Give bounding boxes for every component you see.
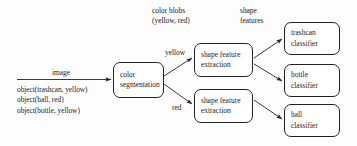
edge-shape-top-to-bottle xyxy=(254,64,282,81)
node-color-segmentation[interactable]: color segmentation xyxy=(113,62,164,98)
input-predicate-list: object(trashcan, yellow) object(ball, re… xyxy=(17,85,88,116)
annotation-shape-features-line-1: shape xyxy=(240,6,263,16)
node-shape-feature-extraction-bottom[interactable]: shape feature extraction xyxy=(194,89,253,123)
node-shape-feature-extraction-top-line-2: extraction xyxy=(201,60,252,70)
node-bottle-classifier[interactable]: bottle classifier xyxy=(284,64,340,97)
edge-color-segmentation-to-shape-bottom xyxy=(164,84,192,104)
annotation-shape-features: shape features xyxy=(240,6,263,26)
edge-color-segmentation-to-shape-top xyxy=(164,58,192,76)
node-color-segmentation-line-2: segmentation xyxy=(120,80,163,90)
node-shape-feature-extraction-top[interactable]: shape feature extraction xyxy=(194,43,253,77)
node-bottle-classifier-line-2: classifier xyxy=(291,81,339,91)
input-predicate-trashcan: object(trashcan, yellow) xyxy=(17,85,88,95)
node-ball-classifier-line-1: ball xyxy=(291,110,339,120)
edge-label-yellow: yellow xyxy=(165,48,185,58)
node-trashcan-classifier[interactable]: trashcan classifier xyxy=(284,22,340,55)
edge-label-red-text: red xyxy=(172,103,181,113)
diagram-canvas: color blobs (yellow, red) shape features… xyxy=(0,0,357,146)
node-ball-classifier-line-2: classifier xyxy=(291,121,339,131)
annotation-color-blobs: color blobs (yellow, red) xyxy=(152,6,190,26)
edge-label-red: red xyxy=(172,103,181,113)
node-bottle-classifier-line-1: bottle xyxy=(291,70,339,80)
edge-shape-bottom-to-ball xyxy=(254,100,282,119)
annotation-color-blobs-line-1: color blobs xyxy=(152,6,190,16)
node-trashcan-classifier-line-1: trashcan xyxy=(291,28,339,38)
node-trashcan-classifier-line-2: classifier xyxy=(291,39,339,49)
input-predicate-bottle: object(bottle, yellow) xyxy=(17,106,88,116)
input-predicate-ball: object(ball, red) xyxy=(17,95,88,105)
node-shape-feature-extraction-bottom-line-2: extraction xyxy=(201,106,252,116)
node-ball-classifier[interactable]: ball classifier xyxy=(284,104,340,137)
edge-label-image: image xyxy=(52,68,70,78)
node-shape-feature-extraction-top-line-1: shape feature xyxy=(201,50,252,60)
node-shape-feature-extraction-bottom-line-1: shape feature xyxy=(201,96,252,106)
edge-label-yellow-text: yellow xyxy=(165,48,185,58)
annotation-color-blobs-line-2: (yellow, red) xyxy=(152,16,190,26)
annotation-shape-features-line-2: features xyxy=(240,16,263,26)
node-color-segmentation-line-1: color xyxy=(120,70,163,80)
edge-label-image-text: image xyxy=(52,68,70,78)
edge-shape-top-to-trashcan xyxy=(254,39,282,58)
